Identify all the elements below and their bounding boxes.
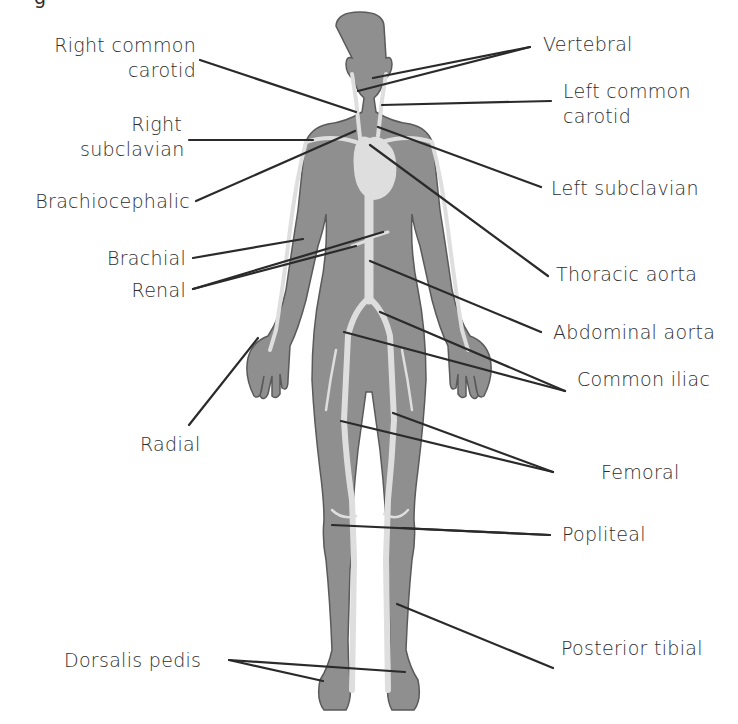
arterial-system-diagram: g — [0, 0, 738, 724]
label-brachiocephalic: Brachiocephalic — [14, 189, 190, 214]
label-posterior-tibial: Posterior tibial — [561, 636, 703, 661]
label-left-common-carotid: Left common carotid — [563, 79, 691, 129]
label-vertebral: Vertebral — [543, 32, 633, 57]
label-right-common-carotid: Right common carotid — [38, 33, 196, 83]
label-right-subclavian: Right subclavian — [80, 112, 182, 162]
label-femoral: Femoral — [601, 460, 680, 485]
label-brachial: Brachial — [90, 246, 186, 271]
label-common-iliac: Common iliac — [577, 367, 710, 392]
label-dorsalis-pedis: Dorsalis pedis — [64, 648, 201, 673]
label-radial: Radial — [140, 432, 201, 457]
label-left-subclavian: Left subclavian — [551, 176, 699, 201]
label-abdominal-aorta: Abdominal aorta — [553, 320, 715, 345]
label-thoracic-aorta: Thoracic aorta — [556, 262, 697, 287]
label-popliteal: Popliteal — [562, 522, 646, 547]
label-renal: Renal — [110, 278, 186, 303]
